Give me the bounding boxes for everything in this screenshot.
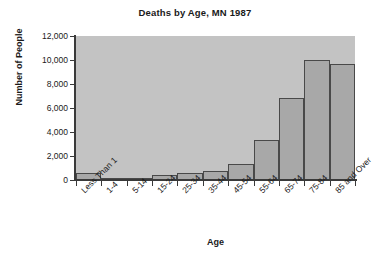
x-axis-tick (355, 181, 356, 186)
x-axis-tick (76, 181, 77, 186)
y-axis-tick-label: 8,000 (2, 79, 68, 89)
x-axis-tick (152, 181, 153, 186)
x-axis-tick (279, 181, 280, 186)
bar-chart-figure: Deaths by Age, MN 1987 Number of People … (0, 0, 390, 257)
x-axis-tick (127, 181, 128, 186)
x-axis-tick (203, 181, 204, 186)
bar (330, 64, 355, 180)
y-axis-tick (70, 36, 75, 37)
x-axis-tick (330, 181, 331, 186)
y-axis-tick (70, 132, 75, 133)
y-axis-tick-label: 0 (2, 175, 68, 185)
y-axis-tick (70, 84, 75, 85)
x-axis-title: Age (76, 237, 355, 247)
y-axis-tick (70, 180, 75, 181)
y-axis-tick-label: 4,000 (2, 127, 68, 137)
y-axis-tick-label: 2,000 (2, 151, 68, 161)
x-axis-tick-label: 1-4 (104, 179, 120, 195)
x-axis-tick (304, 181, 305, 186)
x-axis-tick (101, 181, 102, 186)
y-axis-tick (70, 108, 75, 109)
x-axis-tick (254, 181, 255, 186)
bar (304, 60, 329, 180)
y-axis-tick-label: 10,000 (2, 55, 68, 65)
y-axis-tick-labels: 02,0004,0006,0008,00010,00012,000 (0, 0, 68, 257)
x-axis-tick (177, 181, 178, 186)
plot-area (76, 36, 355, 180)
x-axis-tick (228, 181, 229, 186)
y-axis-tick-label: 6,000 (2, 103, 68, 113)
y-axis-tick-label: 12,000 (2, 31, 68, 41)
y-axis-tick (70, 60, 75, 61)
y-axis-tick (70, 156, 75, 157)
bar (279, 98, 304, 180)
